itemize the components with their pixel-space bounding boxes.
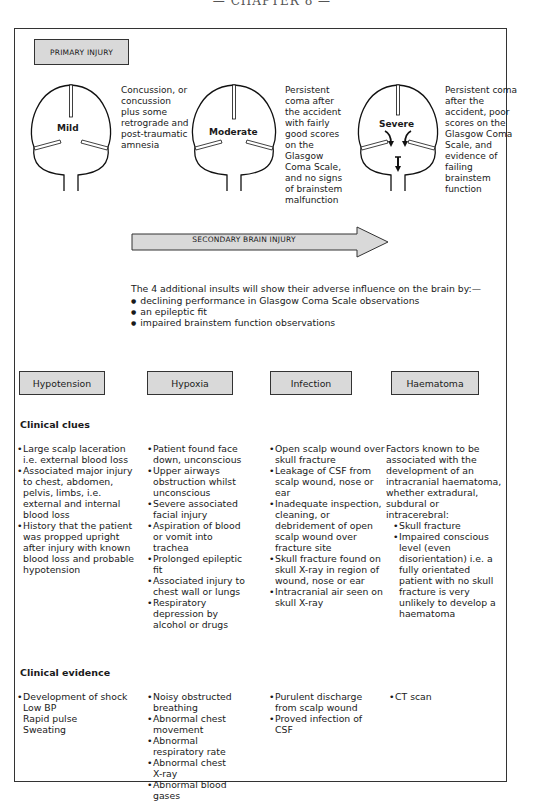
running-head: — CHAPTER 8 —: [0, 0, 544, 8]
evidence-item: CT scan: [389, 691, 499, 702]
head-label-moderate: Moderate: [209, 127, 258, 137]
clue-item: Inadequate inspection, cleaning, or debr…: [269, 498, 385, 553]
evidence-item: Purulent discharge from scalp wound: [269, 691, 379, 713]
clue-item: Associated injury to chest wall or lungs: [147, 575, 247, 597]
clue-item: Large scalp laceration i.e. external blo…: [17, 443, 139, 465]
intro-text: The 4 additional insults will show their…: [131, 283, 491, 294]
category-hypotension: Hypotension: [19, 371, 105, 395]
clue-item: Leakage of CSF from scalp wound, nose or…: [269, 465, 385, 498]
head-outline-icon: [189, 83, 279, 191]
evidence-item: Proved infection of CSF: [269, 713, 379, 735]
evidence-infection: Purulent discharge from scalp wound Prov…: [269, 691, 379, 735]
head-diagram-severe: Severe: [355, 83, 441, 191]
evidence-hypotension: Development of shock Low BP Rapid pulse …: [17, 691, 139, 735]
desc-moderate: Persistent coma after the accident with …: [285, 85, 351, 206]
clinical-clues-title: Clinical clues: [20, 419, 90, 430]
evidence-subitem: Sweating: [17, 724, 139, 735]
clue-item: Associated major injury to chest, abdome…: [17, 465, 139, 520]
clues-infection: Open scalp wound over skull fracture Lea…: [269, 443, 385, 608]
clinical-evidence-title: Clinical evidence: [20, 667, 110, 678]
clue-item: Intracranial air seen on skull X-ray: [269, 586, 385, 608]
category-infection: Infection: [270, 371, 352, 395]
clue-item: Open scalp wound over skull fracture: [269, 443, 385, 465]
clue-item: Skull fracture found on skull X-ray in r…: [269, 553, 385, 586]
desc-severe: Persistent coma after the accident, poor…: [445, 85, 521, 195]
secondary-injury-label: SECONDARY BRAIN INJURY: [131, 235, 357, 244]
evidence-item: Noisy obstructed breathing: [147, 691, 237, 713]
diagram-frame: PRIMARY INJURY Mild Concussion, or concu…: [14, 28, 507, 782]
clue-item: Patient found face down, unconscious: [147, 443, 247, 465]
clue-item: Upper airways obstruction whilst unconsc…: [147, 465, 247, 498]
clues-hypotension: Large scalp laceration i.e. external blo…: [17, 443, 139, 575]
head-outline-icon: [28, 83, 114, 191]
head-diagram-moderate: Moderate: [189, 83, 279, 191]
head-label-severe: Severe: [379, 119, 414, 129]
clue-item: Prolonged epileptic fit: [147, 553, 247, 575]
secondary-injury-intro: The 4 additional insults will show their…: [131, 283, 491, 328]
intro-bullets: declining performance in Glasgow Coma Sc…: [131, 295, 491, 328]
primary-injury-label: PRIMARY INJURY: [34, 39, 129, 65]
head-label-mild: Mild: [57, 123, 79, 133]
clue-item: Skull fracture: [390, 520, 504, 531]
desc-mild: Concussion, or concussion plus some retr…: [121, 85, 189, 151]
clue-item: Impaired conscious level (even disorient…: [390, 531, 504, 619]
intro-bullet: an epileptic fit: [131, 306, 491, 317]
evidence-subitem: Low BP: [17, 702, 139, 713]
category-hypoxia: Hypoxia: [147, 371, 233, 395]
evidence-item: Abnormal chest X-ray: [147, 757, 237, 779]
head-outline-icon: [355, 83, 441, 191]
clue-item: Aspiration of blood or vomit into trache…: [147, 520, 247, 553]
clue-item: Respiratory depression by alcohol or dru…: [147, 597, 247, 630]
intro-bullet: impaired brainstem function observations: [131, 317, 491, 328]
head-diagram-mild: Mild: [28, 83, 114, 191]
clues-haematoma: Factors known to be associated with the …: [386, 443, 504, 619]
evidence-item: Development of shock: [17, 691, 139, 702]
category-haematoma: Haematoma: [391, 371, 479, 395]
evidence-subitem: Rapid pulse: [17, 713, 139, 724]
clue-item: Severe associated facial injury: [147, 498, 247, 520]
clue-item: History that the patient was propped upr…: [17, 520, 139, 575]
evidence-item: Abnormal blood gases: [147, 779, 237, 801]
haematoma-intro: Factors known to be associated with the …: [386, 443, 504, 520]
evidence-item: Abnormal chest movement: [147, 713, 237, 735]
evidence-hypoxia: Noisy obstructed breathing Abnormal ches…: [147, 691, 237, 801]
evidence-haematoma: CT scan: [389, 691, 499, 702]
evidence-item: Abnormal respiratory rate: [147, 735, 237, 757]
intro-bullet: declining performance in Glasgow Coma Sc…: [131, 295, 491, 306]
clues-hypoxia: Patient found face down, unconscious Upp…: [147, 443, 247, 630]
